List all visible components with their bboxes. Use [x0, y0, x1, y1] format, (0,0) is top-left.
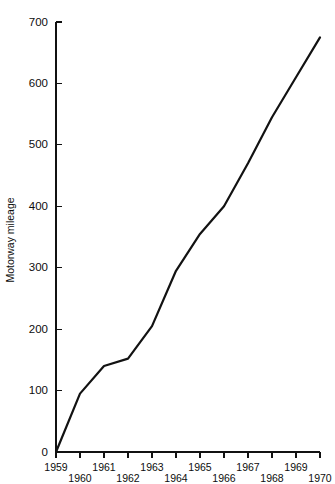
y-tick-labels: 0100200300400500600700 [29, 16, 48, 458]
x-axis-group: 1959196019611962196319641965196619671968… [44, 452, 332, 484]
y-tick-label: 0 [42, 446, 48, 458]
x-tick-label: 1970 [308, 472, 332, 484]
x-tick-label: 1964 [164, 472, 188, 484]
x-tick-label: 1962 [116, 472, 140, 484]
x-tick-label: 1965 [188, 461, 212, 473]
x-tick-label: 1966 [212, 472, 236, 484]
y-tick-label: 700 [29, 16, 48, 28]
y-tick-marks [56, 22, 62, 452]
y-axis-title: Motorway mileage [4, 197, 16, 282]
x-tick-label: 1960 [68, 472, 92, 484]
axis-titles: Motorway mileage [4, 197, 16, 282]
x-tick-label: 1961 [92, 461, 116, 473]
y-axis-group: 0100200300400500600700 [29, 16, 62, 458]
motorway-mileage-chart: 0100200300400500600700 19591960196119621… [0, 0, 335, 484]
x-tick-label: 1968 [260, 472, 284, 484]
y-tick-label: 200 [29, 323, 48, 335]
x-tick-label: 1963 [140, 461, 164, 473]
y-tick-label: 100 [29, 384, 48, 396]
x-tick-label: 1969 [284, 461, 308, 473]
x-tick-labels: 1959196019611962196319641965196619671968… [44, 461, 332, 484]
y-tick-label: 400 [29, 200, 48, 212]
data-series-line [56, 37, 320, 452]
x-tick-label: 1959 [44, 461, 68, 473]
x-tick-marks [56, 452, 320, 458]
y-tick-label: 300 [29, 261, 48, 273]
y-tick-label: 600 [29, 77, 48, 89]
chart-svg: 0100200300400500600700 19591960196119621… [0, 0, 335, 484]
x-tick-label: 1967 [236, 461, 260, 473]
y-tick-label: 500 [29, 138, 48, 150]
